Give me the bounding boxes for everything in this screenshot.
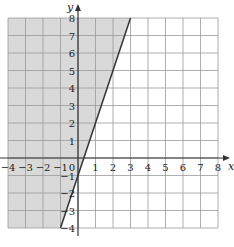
x-tick-label: 5 bbox=[162, 162, 168, 173]
x-tick-label: 1 bbox=[92, 162, 98, 173]
y-tick-label: 6 bbox=[69, 48, 75, 59]
x-tick-label: 7 bbox=[197, 162, 203, 173]
y-tick-label: 8 bbox=[69, 13, 75, 24]
x-tick-label: −3 bbox=[18, 162, 33, 173]
y-tick-label: 3 bbox=[69, 101, 75, 112]
y-tick-label: −2 bbox=[60, 188, 75, 199]
x-tick-label: 6 bbox=[180, 162, 186, 173]
x-tick-label: −4 bbox=[1, 162, 16, 173]
y-tick-label: 2 bbox=[69, 118, 75, 129]
y-tick-label: 1 bbox=[69, 136, 75, 147]
x-axis-label: x bbox=[228, 160, 234, 173]
y-axis-label: y bbox=[66, 1, 74, 14]
y-tick-label: −3 bbox=[60, 206, 75, 217]
x-tick-label: 8 bbox=[215, 162, 221, 173]
y-axis-arrow-icon bbox=[75, 4, 81, 11]
x-tick-label: 4 bbox=[145, 162, 151, 173]
inequality-graph: −4−3−2−1012345678−4−3−2−112345678 x y bbox=[0, 0, 234, 247]
x-tick-label: 3 bbox=[127, 162, 133, 173]
y-tick-label: 5 bbox=[69, 66, 75, 77]
y-tick-label: −1 bbox=[60, 171, 75, 182]
y-tick-label: 7 bbox=[69, 31, 75, 42]
x-tick-label: −2 bbox=[36, 162, 51, 173]
y-tick-label: 4 bbox=[69, 83, 75, 94]
x-tick-label: 2 bbox=[110, 162, 116, 173]
y-tick-label: −4 bbox=[60, 223, 75, 234]
